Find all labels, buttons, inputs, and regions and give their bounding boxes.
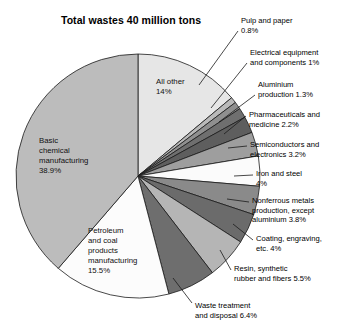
label-line: rubber and fibers 5.5% (234, 274, 311, 284)
label-line: production 1.3% (258, 90, 313, 100)
label-line: 38.9% (39, 166, 88, 176)
label-line: Petroleum (88, 226, 137, 236)
label-line: manufacturing (39, 156, 88, 166)
label-line: Nonferrous metals (252, 196, 314, 206)
label-line: and disposal 6.4% (195, 311, 257, 321)
label-line: Iron and steel (256, 169, 302, 179)
label-line: Pulp and paper (241, 16, 293, 26)
slice-label-aluminium-production: Aluminiumproduction 1.3% (258, 80, 313, 99)
label-line: products (88, 246, 137, 256)
label-line: etc. 4% (256, 244, 322, 254)
label-line: Pharmaceuticals and (249, 110, 320, 120)
slice-label-semiconductors-and-electronics: Semiconductors andelectronics 3.2% (250, 140, 319, 159)
slice-label-coating-engraving: Coating, engraving,etc. 4% (256, 234, 322, 253)
label-line: Waste treatment (195, 301, 257, 311)
label-line: Resin, synthetic (234, 264, 311, 274)
pie-chart-figure: Total wastes 40 million tons All other14… (0, 0, 354, 334)
label-line: aluminium 3.8% (252, 215, 314, 225)
slice-label-all-other: All other14% (156, 77, 185, 97)
slice-label-iron-and-steel: Iron and steel4% (256, 169, 302, 188)
label-line: Basic (39, 136, 88, 146)
slice-label-resin-synthetic-rubber-and-fibers: Resin, syntheticrubber and fibers 5.5% (234, 264, 311, 283)
label-line: 15.5% (88, 266, 137, 276)
slice-label-waste-treatment-and-disposal: Waste treatmentand disposal 6.4% (195, 301, 257, 320)
label-line: production, except (252, 206, 314, 216)
label-line: chemical (39, 146, 88, 156)
slice-label-pharmaceuticals-and-medicine: Pharmaceuticals andmedicine 2.2% (249, 110, 320, 129)
leader-line-pulp-and-paper (199, 31, 238, 85)
slice-label-electrical-equipment-and-components: Electrical equipmentand components 1% (250, 48, 319, 67)
label-line: Coating, engraving, (256, 234, 322, 244)
label-line: 0.8% (241, 26, 293, 36)
label-line: 14% (156, 87, 185, 97)
slice-label-petroleum-and-coal: Petroleumand coalproductsmanufacturing15… (88, 226, 137, 276)
label-line: electronics 3.2% (250, 150, 319, 160)
label-line: Electrical equipment (250, 48, 319, 58)
label-line: All other (156, 77, 185, 87)
slice-label-nonferrous-metals-production: Nonferrous metalsproduction, exceptalumi… (252, 196, 314, 225)
label-line: manufacturing (88, 256, 137, 266)
label-line: Semiconductors and (250, 140, 319, 150)
slice-label-basic-chemical-manufacturing: Basicchemicalmanufacturing38.9% (39, 136, 88, 176)
label-line: and components 1% (250, 58, 319, 68)
slice-label-pulp-and-paper: Pulp and paper0.8% (241, 16, 293, 35)
label-line: and coal (88, 236, 137, 246)
label-line: medicine 2.2% (249, 120, 320, 130)
label-line: Aluminium (258, 80, 313, 90)
label-line: 4% (256, 179, 302, 189)
